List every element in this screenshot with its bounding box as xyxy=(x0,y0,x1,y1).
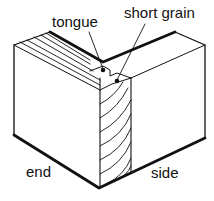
wood-joint-diagram: tongue short grain end side xyxy=(0,0,214,201)
short-grain-dot xyxy=(115,79,120,84)
side-label: side xyxy=(151,165,179,180)
short-grain-label: short grain xyxy=(124,5,195,20)
tongue-step xyxy=(90,66,131,78)
side-face-outline xyxy=(175,32,205,138)
strip-grain-curves xyxy=(100,82,131,184)
tongue-label: tongue xyxy=(52,14,98,29)
short-grain-leader xyxy=(117,24,145,80)
tongue-leader xyxy=(89,32,103,69)
end-label: end xyxy=(26,164,51,179)
tongue-dot xyxy=(101,68,106,73)
end-grain-lines xyxy=(20,33,100,85)
side-top-edge xyxy=(131,45,205,78)
